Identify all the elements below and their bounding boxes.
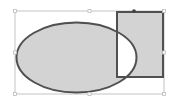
rotate-handle-icon[interactable]	[132, 9, 136, 13]
resize-handle-icon[interactable]	[14, 51, 17, 54]
resize-handle-icon[interactable]	[163, 51, 166, 54]
resize-handle-icon[interactable]	[14, 10, 17, 13]
resize-handle-icon[interactable]	[88, 10, 91, 13]
resize-handle-icon[interactable]	[163, 93, 166, 96]
drawing-canvas[interactable]	[0, 0, 175, 108]
resize-handle-icon[interactable]	[88, 93, 91, 96]
shape-group[interactable]	[17, 12, 164, 93]
resize-handle-icon[interactable]	[14, 93, 17, 96]
resize-handle-icon[interactable]	[163, 10, 166, 13]
